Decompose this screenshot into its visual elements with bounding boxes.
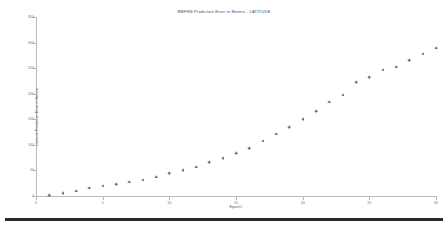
x-tick-mark: [169, 196, 170, 200]
y-tick-label: 200: [28, 92, 34, 96]
data-point: [155, 175, 158, 178]
x-tick-mark: [436, 196, 437, 200]
data-point: [328, 101, 331, 104]
data-point: [61, 192, 64, 195]
y-tick-label: 250: [28, 66, 34, 70]
data-point: [368, 76, 371, 79]
y-tick-label: 300: [28, 41, 34, 45]
y-tick-label: 100: [28, 143, 34, 147]
data-point: [315, 110, 318, 113]
x-tick-label: 25: [367, 201, 371, 205]
data-point: [435, 46, 438, 49]
x-tick-mark: [36, 196, 37, 200]
y-tick-label: 150: [28, 117, 34, 121]
y-tick-label: 50: [30, 168, 34, 172]
x-tick-mark: [103, 196, 104, 200]
data-point: [235, 152, 238, 155]
data-point: [75, 190, 78, 193]
x-tick-label: 20: [301, 201, 305, 205]
data-point: [141, 178, 144, 181]
x-tick-label: 15: [234, 201, 238, 205]
y-tick-label: 0: [32, 194, 34, 198]
x-tick-mark: [236, 196, 237, 200]
data-point: [101, 184, 104, 187]
data-point: [128, 180, 131, 183]
data-point: [355, 81, 358, 84]
data-point: [408, 59, 411, 62]
data-point: [115, 183, 118, 186]
x-tick-mark: [369, 196, 370, 200]
data-point: [381, 68, 384, 71]
chart-title: RBFNN Prediction Error in Meters - LATIT…: [0, 9, 448, 15]
x-tick-label: 5: [102, 201, 104, 205]
x-tick-label: 10: [167, 201, 171, 205]
x-tick-label: 30: [434, 201, 438, 205]
plot-area: 050100150200250300350 051015202530: [36, 17, 436, 196]
data-point: [48, 194, 51, 197]
data-point: [208, 161, 211, 164]
data-point: [395, 65, 398, 68]
data-point: [275, 132, 278, 135]
data-point: [181, 169, 184, 172]
bottom-divider-bar: [5, 218, 443, 221]
data-point: [421, 53, 424, 56]
data-point: [195, 166, 198, 169]
x-tick-label: 0: [35, 201, 37, 205]
data-point: [261, 139, 264, 142]
chart-figure: RBFNN Prediction Error in Meters - LATIT…: [0, 0, 448, 234]
y-tick-label: 350: [28, 15, 34, 19]
data-point: [248, 147, 251, 150]
x-tick-mark: [303, 196, 304, 200]
data-point: [221, 157, 224, 160]
data-point: [301, 118, 304, 121]
data-point: [341, 93, 344, 96]
data-point: [288, 126, 291, 129]
data-point: [88, 187, 91, 190]
scatter-series: [36, 17, 436, 196]
x-axis-label: Epoch#: [36, 205, 436, 210]
data-point: [168, 172, 171, 175]
